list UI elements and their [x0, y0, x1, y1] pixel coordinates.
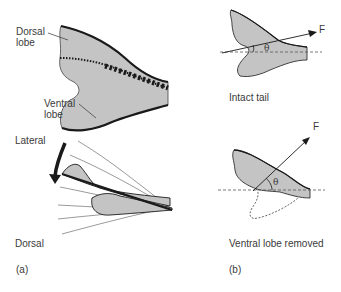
intact-tail-caption: Intact tail — [229, 92, 269, 103]
dorsal-lobe-label: Dorsal lobe — [16, 26, 45, 48]
dorsal-label: Dorsal — [15, 238, 44, 249]
ventral-lobe-removed-caption: Ventral lobe removed — [229, 238, 324, 249]
ventral-lobe-label: Ventral lobe — [44, 98, 75, 120]
force-label-intact: F — [319, 24, 325, 35]
lateral-motion-arrow — [55, 143, 65, 176]
angle-label-removed: θ — [273, 177, 278, 188]
panel-b-label: (b) — [229, 264, 241, 275]
intact-tail-diagram — [220, 10, 322, 77]
tail-dorsal-view — [49, 141, 172, 234]
motion-trace-lines — [58, 141, 170, 234]
lateral-label: Lateral — [15, 135, 46, 146]
tail-body-shape — [60, 26, 168, 130]
panel-a-label: (a) — [16, 264, 28, 275]
angle-label-intact: θ — [264, 43, 269, 54]
tail-diagram-figure: Dorsal lobe Ventral lobe Lateral Dorsal … — [0, 0, 341, 292]
removed-lobe-tail-diagram — [218, 137, 325, 218]
force-label-removed: F — [313, 121, 319, 132]
force-arrowhead-icon — [308, 30, 317, 37]
arrowhead-icon — [49, 174, 61, 184]
